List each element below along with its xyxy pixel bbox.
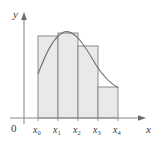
rect-bar-3 bbox=[98, 87, 118, 118]
tick-label-x3: x3 bbox=[92, 124, 101, 136]
rect-bar-1 bbox=[58, 33, 78, 118]
tick-label-x2: x2 bbox=[72, 124, 81, 136]
tick-label-x2-sub: 2 bbox=[77, 129, 80, 136]
tick-label-x1-sub: 1 bbox=[57, 129, 60, 136]
x-axis-arrow-icon bbox=[138, 115, 146, 121]
tick-label-x0: x0 bbox=[32, 124, 41, 136]
figure-canvas: y x 0 x0 x1 x2 x3 x4 bbox=[0, 0, 163, 147]
riemann-sum-figure: y x 0 x0 x1 x2 x3 x4 bbox=[0, 0, 163, 147]
y-axis-arrow-icon bbox=[21, 12, 27, 20]
tick-label-x1: x1 bbox=[52, 124, 61, 136]
x-tick-labels: x0 x1 x2 x3 x4 bbox=[32, 124, 121, 136]
riemann-rectangles bbox=[38, 33, 118, 118]
tick-label-x4: x4 bbox=[112, 124, 121, 136]
origin-label: 0 bbox=[11, 122, 17, 134]
rect-bar-0 bbox=[38, 36, 58, 118]
y-axis-label: y bbox=[12, 8, 18, 20]
tick-label-x4-sub: 4 bbox=[117, 129, 121, 136]
rect-bar-2 bbox=[78, 46, 98, 118]
tick-label-x3-sub: 3 bbox=[97, 129, 100, 136]
x-axis-label: x bbox=[145, 123, 151, 135]
tick-label-x0-sub: 0 bbox=[37, 129, 40, 136]
